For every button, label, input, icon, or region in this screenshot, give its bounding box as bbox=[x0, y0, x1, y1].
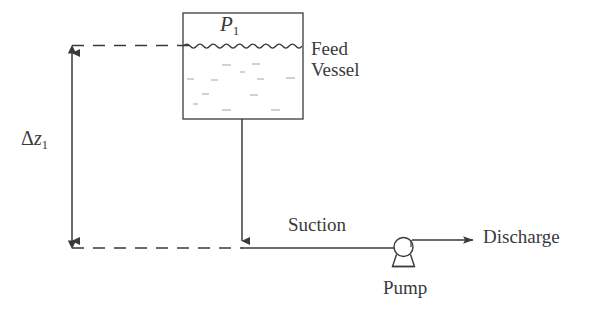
discharge-label: Discharge bbox=[483, 226, 560, 247]
delta-symbol: Δ bbox=[21, 127, 34, 149]
pump-label: Pump bbox=[383, 277, 427, 298]
process-flow-diagram: P1 Δz1 FeedVessel Suction Discharge Pump bbox=[0, 0, 601, 319]
elevation-dimension-arrow bbox=[68, 45, 76, 249]
diagram-canvas bbox=[0, 0, 601, 319]
feed-vessel-label: FeedVessel bbox=[311, 38, 360, 81]
pressure-label: P1 bbox=[220, 13, 239, 39]
elevation-subscript: 1 bbox=[42, 138, 48, 152]
feed-vessel-outline bbox=[183, 13, 303, 119]
discharge-line bbox=[411, 240, 473, 247]
pressure-symbol: P bbox=[220, 12, 233, 36]
feed-vessel-label-line1: Feed bbox=[311, 38, 348, 59]
liquid-surface-icon bbox=[184, 44, 303, 48]
elevation-label: Δz1 bbox=[21, 127, 48, 153]
pressure-subscript: 1 bbox=[233, 23, 240, 38]
suction-label: Suction bbox=[288, 214, 346, 235]
elevation-variable: z bbox=[34, 127, 42, 149]
liquid-texture bbox=[187, 64, 295, 110]
feed-vessel-label-line2: Vessel bbox=[311, 59, 360, 80]
